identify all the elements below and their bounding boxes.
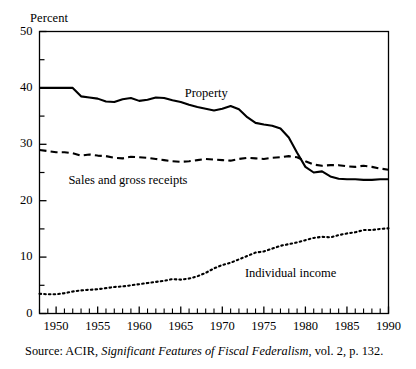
x-tick-label-1960: 1960 xyxy=(119,319,159,334)
source-note: Source: ACIR, Significant Features of Fi… xyxy=(25,344,383,359)
source-suffix: , vol. 2, p. 132. xyxy=(308,344,383,358)
x-tick-label-1965: 1965 xyxy=(161,319,201,334)
x-tick-label-1970: 1970 xyxy=(202,319,242,334)
chart-plot-area xyxy=(0,0,416,369)
x-tick-label-1975: 1975 xyxy=(244,319,284,334)
y-axis-ticks xyxy=(40,32,47,314)
y-tick-label-30: 30 xyxy=(7,136,33,151)
figure: Percent 01020304050 19501955196019651970… xyxy=(0,0,416,369)
series-label-property: Property xyxy=(185,86,228,101)
x-tick-label-1985: 1985 xyxy=(327,319,367,334)
y-tick-label-40: 40 xyxy=(7,80,33,95)
y-tick-label-50: 50 xyxy=(7,24,33,39)
series-line-individual-income xyxy=(40,228,389,294)
y-tick-label-20: 20 xyxy=(7,193,33,208)
x-tick-label-1990: 1990 xyxy=(369,319,409,334)
series-label-sales: Sales and gross receipts xyxy=(68,173,187,188)
data-series-group xyxy=(40,88,389,294)
y-tick-label-10: 10 xyxy=(7,249,33,264)
source-prefix: Source: ACIR, xyxy=(25,344,101,358)
x-tick-label-1980: 1980 xyxy=(285,319,325,334)
x-tick-label-1950: 1950 xyxy=(36,319,76,334)
source-title: Significant Features of Fiscal Federalis… xyxy=(101,344,308,358)
series-line-sales-and-gross-receipts xyxy=(40,150,389,170)
x-tick-label-1955: 1955 xyxy=(78,319,118,334)
y-tick-label-0: 0 xyxy=(7,306,33,321)
x-axis-ticks xyxy=(40,307,389,314)
series-line-property xyxy=(40,88,389,180)
series-label-individual: Individual income xyxy=(245,266,336,281)
